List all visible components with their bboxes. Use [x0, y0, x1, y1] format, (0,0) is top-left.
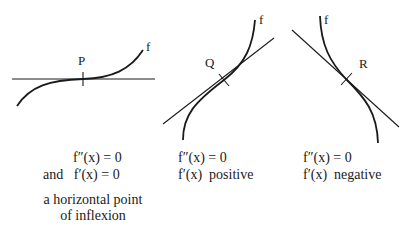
and-word: and [43, 167, 63, 182]
caption-r-line2: f′(x) negative [303, 167, 381, 183]
caption-p-line2: and f′(x) = 0 [43, 167, 120, 183]
caption-q-line1: f″(x) = 0 [178, 150, 227, 166]
curve-label-f-p: f [146, 40, 150, 54]
point-label-q: Q [205, 56, 214, 70]
caption-p-description-2: of inflexion [0, 208, 188, 224]
caption-q-line2: f′(x) positive [178, 167, 253, 183]
caption-p-line1: f″(x) = 0 [73, 150, 122, 166]
diagram-r [292, 16, 399, 143]
curve-label-f-r: f [324, 13, 328, 27]
diagram-q [163, 20, 274, 140]
point-label-r: R [359, 57, 368, 71]
first-derivative-p: f′(x) = 0 [74, 167, 120, 182]
curve-f-r [320, 16, 378, 143]
point-label-p: P [78, 54, 85, 68]
caption-p-description-1: a horizontal point [0, 192, 188, 208]
caption-r-line1: f″(x) = 0 [303, 150, 352, 166]
curve-label-f-q: f [259, 13, 263, 27]
second-derivative-p: f″(x) = 0 [73, 150, 122, 165]
tangent-line-q [163, 38, 274, 124]
